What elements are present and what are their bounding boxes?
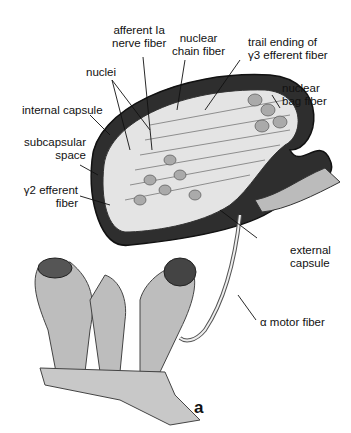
label-line: trail ending of [248,36,328,49]
label-line: γ3 efferent fiber [248,49,328,62]
label-line: nuclear [282,82,327,95]
label-nuclei: nuclei [86,66,116,79]
panel-label: a [194,398,203,418]
label-alpha-motor-fiber: α motor fiber [260,316,325,329]
label-nuclear-bag-fiber: nuclear bag fiber [282,82,327,108]
muscle-spindle-illustration [0,0,351,433]
label-line: fiber [18,197,78,210]
spindle-body [91,75,340,341]
label-line: capsule [290,257,331,270]
label-line: γ2 efferent [18,184,78,197]
label-subcapsular-space: subcapsular space [24,136,86,162]
label-line: nuclear [172,32,225,45]
label-internal-capsule: internal capsule [22,104,103,117]
fiber-cross-section [164,258,196,286]
label-line: nerve fiber [112,37,166,50]
fiber-cross-section [38,258,72,278]
label-line: chain fiber [172,45,225,58]
label-line: space [24,149,86,162]
label-nuclear-chain-fiber: nuclear chain fiber [172,32,225,58]
label-trail-ending: trail ending of γ3 efferent fiber [248,36,328,62]
label-line: bag fiber [282,95,327,108]
label-line: external [290,244,331,257]
label-line: subcapsular [24,136,86,149]
extrafusal-fibers [35,262,200,425]
label-afferent-ia-nerve-fiber: afferent Ia nerve fiber [112,24,166,50]
label-external-capsule: external capsule [290,244,331,270]
label-line: afferent Ia [112,24,166,37]
label-gamma2-efferent-fiber: γ2 efferent fiber [18,184,78,210]
